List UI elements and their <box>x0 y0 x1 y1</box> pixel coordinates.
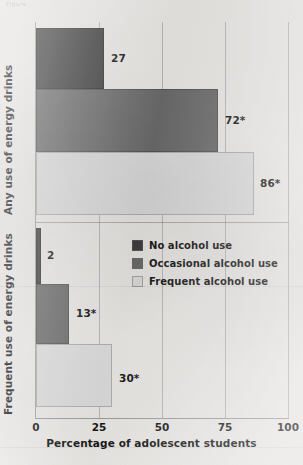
bar-frequent-use-occasional-alcohol[interactable] <box>36 284 69 344</box>
legend-item-frequent-alcohol[interactable]: Frequent alcohol use <box>132 276 278 287</box>
gridline-50 <box>162 22 163 418</box>
bar-any-use-no-alcohol[interactable] <box>36 28 104 89</box>
bar-any-use-frequent-alcohol[interactable] <box>36 152 254 215</box>
bar-value-any-use-occasional-alcohol: 72* <box>225 114 245 126</box>
legend-label-frequent-alcohol: Frequent alcohol use <box>149 276 268 287</box>
plot-area: 27 72* 86* 2 13* 30* <box>36 22 289 418</box>
gridline-100 <box>288 22 289 418</box>
bar-frequent-use-no-alcohol[interactable] <box>36 228 41 284</box>
cropped-top-caption: Figure <box>6 0 27 7</box>
group-label-any-use: Any use of energy drinks <box>2 15 14 215</box>
legend-label-no-alcohol: No alcohol use <box>149 240 232 251</box>
bar-frequent-use-frequent-alcohol[interactable] <box>36 344 112 407</box>
x-tick-0: 0 <box>32 421 39 433</box>
bar-value-frequent-use-occasional-alcohol: 13* <box>76 307 96 319</box>
gridline-75 <box>225 22 226 418</box>
x-tick-75: 75 <box>218 421 233 433</box>
group-label-frequent-use: Frequent use of energy drinks <box>2 215 14 415</box>
x-axis-title: Percentage of adolescent students <box>0 437 303 449</box>
legend-swatch-icon <box>132 276 143 287</box>
x-axis-line <box>35 418 289 419</box>
bar-value-frequent-use-no-alcohol: 2 <box>47 249 54 261</box>
legend-swatch-icon <box>132 258 143 269</box>
legend-item-no-alcohol[interactable]: No alcohol use <box>132 240 278 251</box>
x-tick-25: 25 <box>92 421 107 433</box>
x-tick-100: 100 <box>277 421 299 433</box>
group-separator <box>35 222 289 223</box>
bar-value-any-use-frequent-alcohol: 86* <box>260 177 280 189</box>
bar-any-use-occasional-alcohol[interactable] <box>36 89 218 152</box>
bar-value-any-use-no-alcohol: 27 <box>111 52 126 64</box>
bar-value-frequent-use-frequent-alcohol: 30* <box>119 372 139 384</box>
legend-swatch-icon <box>132 240 143 251</box>
legend-item-occasional-alcohol[interactable]: Occasional alcohol use <box>132 258 278 269</box>
x-tick-50: 50 <box>155 421 170 433</box>
legend-label-occasional-alcohol: Occasional alcohol use <box>149 258 278 269</box>
legend: No alcohol use Occasional alcohol use Fr… <box>132 240 278 294</box>
